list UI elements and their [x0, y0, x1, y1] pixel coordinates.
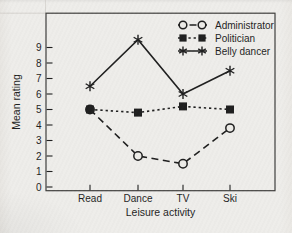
filled-square-marker	[198, 34, 205, 41]
series-line-politician	[90, 106, 230, 112]
series-line-administrator	[90, 110, 230, 164]
filled-square-marker	[179, 34, 186, 41]
x-category-label: TV	[177, 193, 190, 204]
filled-square-marker	[226, 106, 234, 114]
legend-label-belly-dancer: Belly dancer	[215, 46, 271, 57]
series-line-belly-dancer	[90, 40, 230, 94]
open-circle-marker	[198, 21, 206, 29]
x-category-label: Ski	[223, 193, 237, 204]
legend-label-administrator: Administrator	[215, 20, 275, 31]
x-axis-title: Leisure activity	[126, 206, 196, 218]
open-circle-marker	[179, 21, 187, 29]
y-tick-label: 6	[36, 89, 42, 100]
y-axis: 0123456789	[36, 42, 53, 193]
open-circle-marker	[179, 160, 187, 168]
y-tick-label: 4	[36, 120, 42, 131]
legend: Administrator Politician Belly dancer	[215, 20, 275, 57]
y-tick-label: 9	[36, 42, 42, 53]
filled-square-marker	[134, 109, 142, 117]
legend-symbols	[178, 21, 207, 55]
y-tick-label: 0	[36, 182, 42, 193]
x-axis: ReadDanceTVSki	[78, 185, 237, 204]
interaction-plot: 0123456789 ReadDanceTVSki Leisure activi…	[0, 0, 292, 233]
y-tick-label: 8	[36, 58, 42, 69]
filled-square-marker	[179, 102, 187, 110]
y-tick-label: 1	[36, 166, 42, 177]
scanned-figure: 0123456789 ReadDanceTVSki Leisure activi…	[0, 0, 292, 233]
open-circle-marker	[226, 124, 234, 132]
y-tick-label: 3	[36, 135, 42, 146]
y-tick-label: 5	[36, 104, 42, 115]
open-circle-marker	[134, 152, 142, 160]
x-category-label: Dance	[124, 193, 153, 204]
y-axis-title: Mean rating	[10, 74, 22, 130]
filled-square-marker	[86, 106, 94, 114]
series-lines	[86, 35, 235, 168]
scan-artifact-lines	[0, 0, 46, 13]
asterisk-marker	[226, 66, 235, 76]
legend-label-politician: Politician	[215, 33, 255, 44]
y-tick-label: 7	[36, 73, 42, 84]
y-tick-label: 2	[36, 151, 42, 162]
x-category-label: Read	[78, 193, 102, 204]
